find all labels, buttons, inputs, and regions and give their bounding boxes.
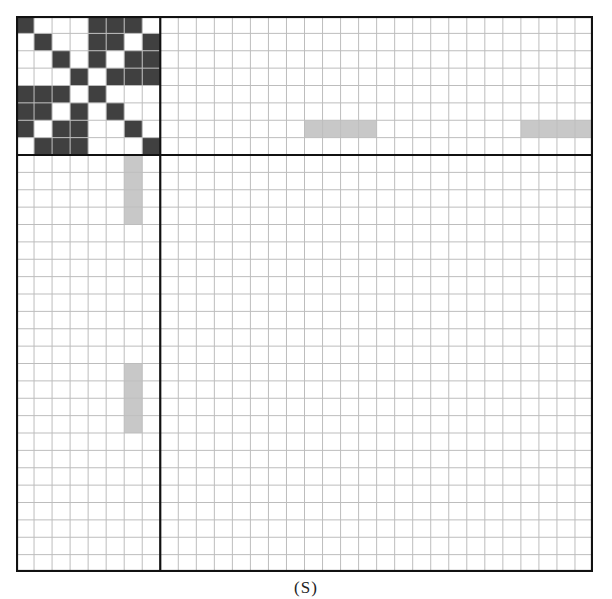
filled-cell xyxy=(124,68,142,85)
filled-cell xyxy=(124,51,142,68)
filled-cell xyxy=(70,120,88,137)
filled-cell xyxy=(52,86,70,103)
filled-cell xyxy=(16,103,34,120)
highlighted-cell xyxy=(539,120,557,137)
filled-cell xyxy=(106,68,124,85)
highlighted-cell xyxy=(323,120,341,137)
highlighted-cell xyxy=(124,155,142,172)
filled-cell xyxy=(16,86,34,103)
filled-cell xyxy=(16,16,34,33)
filled-cell xyxy=(88,33,106,50)
highlighted-cell xyxy=(124,190,142,207)
pattern-grid xyxy=(16,16,593,572)
highlighted-cell xyxy=(359,120,377,137)
filled-cell xyxy=(70,68,88,85)
filled-cell xyxy=(124,16,142,33)
highlighted-cell xyxy=(341,120,359,137)
highlighted-cell xyxy=(521,120,539,137)
highlighted-cell xyxy=(305,120,323,137)
filled-cell xyxy=(52,138,70,155)
highlighted-cell xyxy=(124,364,142,381)
filled-cell xyxy=(88,86,106,103)
filled-cell xyxy=(106,33,124,50)
highlighted-cell xyxy=(557,120,575,137)
filled-cell xyxy=(34,103,52,120)
filled-cell xyxy=(106,16,124,33)
filled-cell xyxy=(52,120,70,137)
highlighted-cell xyxy=(124,416,142,433)
figure-caption: (S) xyxy=(0,578,612,598)
filled-cell xyxy=(142,138,160,155)
filled-cell xyxy=(142,68,160,85)
filled-cell xyxy=(52,51,70,68)
filled-cell xyxy=(142,33,160,50)
highlighted-cell xyxy=(124,381,142,398)
filled-cell xyxy=(70,138,88,155)
filled-cell xyxy=(106,103,124,120)
filled-cell xyxy=(142,51,160,68)
filled-cell xyxy=(88,51,106,68)
filled-cell xyxy=(34,86,52,103)
filled-cell xyxy=(34,138,52,155)
highlighted-cell xyxy=(575,120,593,137)
highlighted-cell xyxy=(124,172,142,189)
highlighted-cell xyxy=(124,207,142,224)
filled-cell xyxy=(16,120,34,137)
highlighted-cell xyxy=(124,398,142,415)
grid-canvas xyxy=(16,16,593,572)
filled-cell xyxy=(70,103,88,120)
filled-cell xyxy=(124,120,142,137)
filled-cell xyxy=(34,33,52,50)
filled-cell xyxy=(88,16,106,33)
